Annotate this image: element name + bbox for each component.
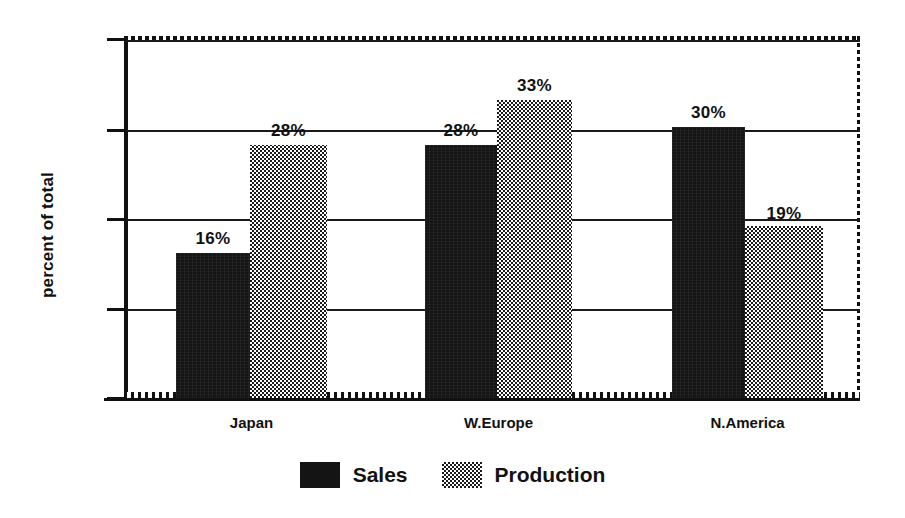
legend-swatch-sales-icon: [300, 462, 340, 488]
category-label-namerica: N.America: [672, 414, 823, 431]
value-label-namerica-sales: 30%: [672, 103, 745, 123]
bar-chart-figure: percent of total 16% 28% 28% 33% 30% 19%: [0, 0, 905, 518]
bar-weurope-sales[interactable]: [425, 145, 497, 398]
value-label-japan-production: 28%: [250, 121, 327, 141]
value-label-namerica-production: 19%: [745, 204, 823, 224]
y-tick-3: [107, 129, 127, 132]
chart-legend: Sales Production: [0, 462, 905, 488]
plot-area: 16% 28% 28% 33% 30% 19%: [124, 40, 860, 400]
y-tick-4: [107, 38, 127, 41]
bar-namerica-production[interactable]: [745, 226, 823, 398]
gridline-4: [124, 40, 860, 42]
value-label-japan-sales: 16%: [176, 229, 250, 249]
bar-namerica-sales[interactable]: [672, 127, 745, 398]
x-axis-baseline: [104, 398, 860, 401]
y-axis-title: percent of total: [28, 130, 68, 340]
bar-weurope-production[interactable]: [497, 100, 572, 398]
legend-label-sales: Sales: [353, 463, 408, 487]
plot-border-right: [857, 36, 860, 400]
value-label-weurope-production: 33%: [497, 76, 572, 96]
category-label-japan: Japan: [176, 414, 327, 431]
y-tick-1: [107, 308, 127, 311]
legend-swatch-production-icon: [442, 462, 482, 488]
bar-japan-production[interactable]: [250, 145, 327, 398]
y-tick-2: [107, 218, 127, 221]
legend-entry-production[interactable]: Production: [442, 462, 606, 488]
bar-japan-sales[interactable]: [176, 253, 250, 398]
y-tick-0: [107, 397, 127, 400]
value-label-weurope-sales: 28%: [425, 121, 497, 141]
legend-label-production: Production: [495, 463, 606, 487]
category-label-weurope: W.Europe: [425, 414, 572, 431]
legend-entry-sales[interactable]: Sales: [300, 462, 408, 488]
